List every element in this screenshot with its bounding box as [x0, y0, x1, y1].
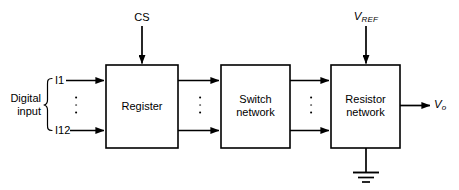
ellipsis-dot — [310, 97, 312, 99]
ellipsis-dot — [75, 97, 77, 99]
block-resistor-network-label: Resistornetwork — [345, 93, 385, 119]
ellipsis-dot — [310, 104, 312, 106]
ellipsis-dot — [75, 104, 77, 106]
ellipsis-dot — [199, 97, 201, 99]
digital-input-brace — [44, 79, 52, 131]
ellipsis-dot — [199, 112, 201, 114]
input-pin-i12-label: I12 — [55, 124, 70, 137]
input-bus-ellipsis — [75, 97, 77, 114]
cs-signal-label: CS — [134, 11, 149, 24]
diagram-vector-layer — [0, 0, 459, 190]
block-diagram-canvas: Digitalinput I1 I12 CS VREF Vo Register … — [0, 0, 459, 190]
block-register-label: Register — [122, 100, 163, 113]
ellipsis-dot — [199, 104, 201, 106]
ellipsis-dot — [75, 112, 77, 114]
ellipsis-dot — [310, 112, 312, 114]
vref-signal-label: VREF — [354, 10, 378, 25]
block-switch-network-label: Switchnetwork — [236, 93, 275, 119]
digital-input-group-label: Digitalinput — [10, 92, 41, 118]
input-pin-i1-label: I1 — [55, 74, 64, 87]
register-switch-ellipsis — [199, 97, 201, 114]
switch-resistor-ellipsis — [310, 97, 312, 114]
vout-signal-label: Vo — [434, 98, 446, 113]
